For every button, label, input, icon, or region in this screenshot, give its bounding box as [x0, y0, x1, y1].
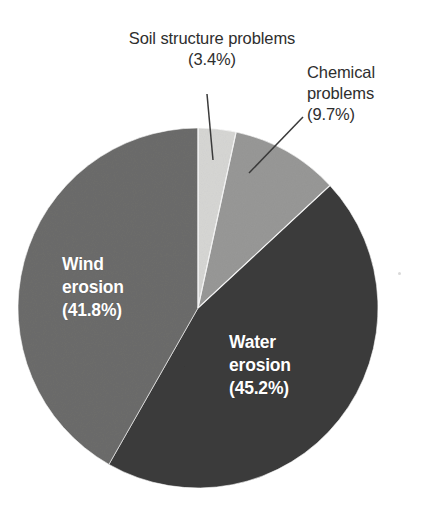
slice-label-wind-line-1: Wind: [62, 253, 124, 276]
slice-label-wind-erosion: Wind erosion (41.8%): [62, 253, 124, 321]
callout-chemical-line-1: Chemical: [307, 62, 419, 83]
slice-label-water-line-3: (45.2%): [229, 377, 291, 400]
slice-label-water-line-1: Water: [229, 331, 291, 354]
pie-chart-figure: Soil structure problems (3.4%) Chemical …: [0, 0, 424, 524]
callout-label-chemical-problems: Chemical problems (9.7%): [307, 62, 419, 125]
slice-label-water-line-2: erosion: [229, 354, 291, 377]
callout-chemical-line-3: (9.7%): [307, 104, 419, 125]
slice-label-water-erosion: Water erosion (45.2%): [229, 331, 291, 399]
callout-label-soil-structure-problems: Soil structure problems (3.4%): [96, 28, 328, 70]
slice-label-wind-line-3: (41.8%): [62, 299, 124, 322]
callout-chemical-line-2: problems: [307, 83, 419, 104]
callout-soil-line-2: (3.4%): [96, 49, 328, 70]
slice-label-wind-line-2: erosion: [62, 276, 124, 299]
page-speck: [398, 272, 401, 275]
callout-soil-line-1: Soil structure problems: [96, 28, 328, 49]
